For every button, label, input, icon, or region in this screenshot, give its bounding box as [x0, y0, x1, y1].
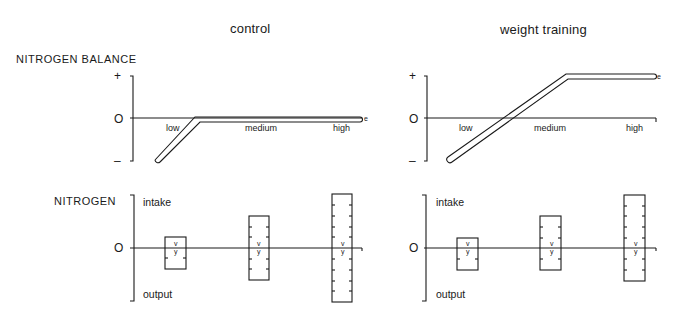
top-left-balance-curve [155, 117, 363, 163]
bottom-right-bar-high [624, 195, 645, 281]
bottom-right-bar-medium [540, 216, 561, 270]
diagram-canvas [0, 0, 678, 333]
top-right-axes [424, 76, 656, 161]
top-left-axes [130, 76, 362, 161]
bottom-left-bar-low [165, 237, 186, 269]
bottom-right-bar-low [457, 238, 478, 270]
